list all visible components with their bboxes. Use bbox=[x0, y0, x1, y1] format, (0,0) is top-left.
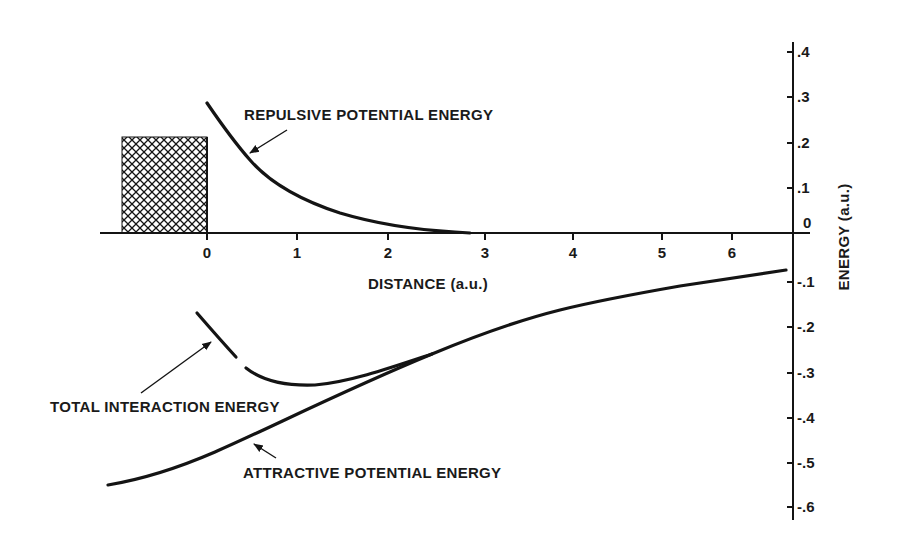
total-interaction-label: TOTAL INTERACTION ENERGY bbox=[50, 398, 280, 415]
y-tick-label: .3 bbox=[797, 88, 810, 105]
repulsive-label: REPULSIVE POTENTIAL ENERGY bbox=[244, 106, 493, 123]
y-tick-label: .2 bbox=[797, 134, 810, 151]
attractive-arrow bbox=[254, 444, 276, 458]
x-axis-ticks: 0123456 bbox=[203, 233, 736, 261]
x-tick-label: 6 bbox=[728, 244, 736, 261]
y-tick-label: 0 bbox=[803, 214, 811, 231]
energy-vs-distance-chart: 0123456 .4.3.2.10-.1-.2-.3-.4-.5-.6 DIST… bbox=[0, 0, 898, 550]
y-tick-label: .1 bbox=[797, 179, 810, 196]
total-interaction-curve-lower bbox=[246, 354, 432, 385]
y-tick-label: .4 bbox=[797, 43, 810, 60]
y-tick-label: -.3 bbox=[797, 364, 815, 381]
x-tick-label: 5 bbox=[658, 244, 666, 261]
x-tick-label: 0 bbox=[203, 244, 211, 261]
y-tick-label: -.2 bbox=[797, 318, 815, 335]
y-axis-label: ENERGY (a.u.) bbox=[835, 184, 852, 291]
crosshatched-region bbox=[122, 137, 207, 233]
y-tick-label: -.1 bbox=[797, 273, 815, 290]
total-interaction-arrow bbox=[141, 342, 211, 393]
x-tick-label: 2 bbox=[384, 244, 392, 261]
x-tick-label: 3 bbox=[481, 244, 489, 261]
total-interaction-curve-upper bbox=[197, 313, 236, 357]
attractive-curve bbox=[108, 270, 786, 485]
x-axis-label: DISTANCE (a.u.) bbox=[368, 275, 488, 292]
x-tick-label: 1 bbox=[293, 244, 301, 261]
y-tick-label: -.4 bbox=[797, 409, 815, 426]
attractive-label: ATTRACTIVE POTENTIAL ENERGY bbox=[243, 464, 501, 481]
y-axis-ticks: .4.3.2.10-.1-.2-.3-.4-.5-.6 bbox=[787, 43, 815, 515]
y-tick-label: -.5 bbox=[797, 454, 815, 471]
y-tick-label: -.6 bbox=[797, 498, 815, 515]
repulsive-arrow bbox=[250, 130, 287, 153]
x-tick-label: 4 bbox=[569, 244, 578, 261]
